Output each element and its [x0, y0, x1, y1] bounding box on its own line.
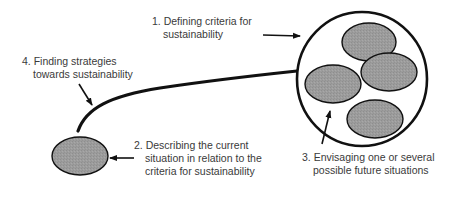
arrow-step-1: [263, 35, 300, 36]
future-situation-ellipse-3: [305, 65, 361, 103]
future-situation-ellipse-4: [347, 100, 403, 138]
step-2-line-3: criteria for sustainability: [134, 165, 262, 178]
step-4-label: 4. Finding strategies towards sustainabi…: [22, 55, 133, 81]
step-2-line-1: 2. Describing the current: [134, 139, 262, 152]
step-2-line-2: situation in relation to the: [134, 152, 262, 165]
current-situation-ellipse: [52, 137, 108, 175]
step-2-label: 2. Describing the current situation in r…: [134, 139, 262, 178]
future-situation-ellipse-2: [361, 53, 417, 91]
step-4-line-1: 4. Finding strategies: [22, 55, 133, 68]
step-3-line-1: 3. Envisaging one or several: [302, 151, 435, 164]
step-1-line-1: 1. Defining criteria for: [152, 15, 252, 28]
arrow-step-4: [79, 84, 92, 105]
step-1-line-2: sustainability: [152, 28, 252, 41]
step-3-line-2: possible future situations: [302, 164, 435, 177]
step-4-line-2: towards sustainability: [22, 68, 133, 81]
step-1-label: 1. Defining criteria for sustainability: [152, 15, 252, 41]
step-3-label: 3. Envisaging one or several possible fu…: [302, 151, 435, 177]
